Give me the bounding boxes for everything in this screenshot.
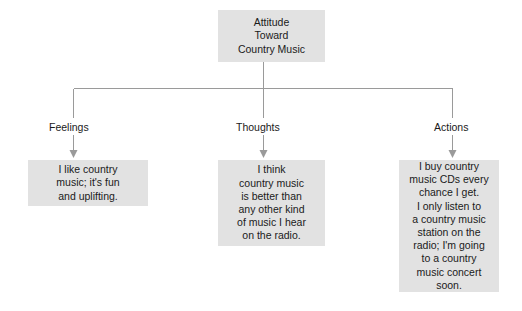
node-actions-line-3: chance I get. bbox=[419, 186, 479, 199]
branch-label-actions: Actions bbox=[430, 120, 472, 135]
node-actions-line-5: a country music bbox=[412, 213, 486, 226]
node-actions-line-9: music concert bbox=[417, 266, 482, 279]
node-feelings-detail: I like country music; it's fun and uplif… bbox=[28, 160, 148, 206]
node-actions-line-2: music CDs every bbox=[409, 173, 488, 186]
node-root-line-2: Toward bbox=[255, 29, 289, 42]
arrowhead-feelings bbox=[70, 150, 78, 158]
node-actions-line-10: soon. bbox=[436, 279, 462, 292]
node-feelings-line-2: music; it's fun bbox=[56, 176, 119, 189]
arrowhead-thoughts bbox=[260, 150, 268, 158]
node-feelings-line-3: and uplifting. bbox=[58, 190, 118, 203]
node-actions-line-8: to a country bbox=[422, 252, 477, 265]
node-root-line-1: Attitude bbox=[254, 16, 290, 29]
node-thoughts-line-2: country music bbox=[239, 177, 304, 190]
node-thoughts-line-3: is better than bbox=[241, 190, 302, 203]
node-actions-line-7: radio; I'm going bbox=[413, 239, 484, 252]
arrowhead-actions bbox=[449, 150, 457, 158]
node-thoughts-line-1: I think bbox=[257, 163, 285, 176]
branch-label-feelings: Feelings bbox=[45, 120, 93, 135]
node-thoughts-line-5: of music I hear bbox=[237, 216, 306, 229]
node-root-line-3: Country Music bbox=[238, 43, 305, 56]
node-actions-line-4: I only listen to bbox=[417, 200, 481, 213]
node-attitude-root: Attitude Toward Country Music bbox=[218, 10, 325, 62]
branch-label-thoughts: Thoughts bbox=[232, 120, 284, 135]
diagram-canvas: Attitude Toward Country Music Feelings T… bbox=[0, 0, 522, 311]
node-actions-line-6: station on the bbox=[417, 226, 480, 239]
node-thoughts-line-4: any other kind bbox=[239, 203, 305, 216]
node-feelings-line-1: I like country bbox=[59, 163, 118, 176]
node-actions-line-1: I buy country bbox=[419, 160, 479, 173]
node-actions-detail: I buy country music CDs every chance I g… bbox=[399, 160, 499, 292]
node-thoughts-line-6: on the radio. bbox=[242, 229, 300, 242]
node-thoughts-detail: I think country music is better than any… bbox=[218, 160, 325, 246]
